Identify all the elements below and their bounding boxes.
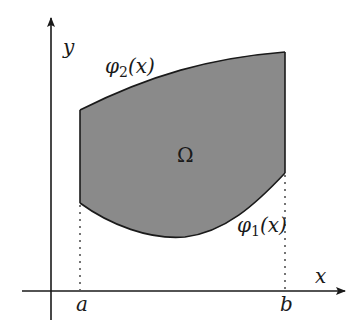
bound-label-b: b: [280, 292, 293, 316]
lower-curve-label: φ1(x): [237, 213, 287, 239]
phi1-subscript: 1: [251, 223, 260, 239]
x-axis-label: x: [315, 264, 326, 288]
diagram-canvas: y x a b φ2(x) φ1(x) Ω: [0, 0, 360, 330]
phi1-argument: (x): [260, 213, 287, 237]
y-axis-label: y: [62, 35, 75, 59]
phi2-subscript: 2: [119, 64, 128, 80]
region-label-omega: Ω: [177, 143, 194, 167]
phi2-symbol: φ: [105, 54, 119, 78]
bound-label-a: a: [76, 292, 88, 316]
upper-curve-label: φ2(x): [105, 54, 155, 80]
region-diagram: y x a b φ2(x) φ1(x) Ω: [0, 0, 360, 330]
phi2-argument: (x): [128, 54, 155, 78]
phi1-symbol: φ: [237, 213, 251, 237]
